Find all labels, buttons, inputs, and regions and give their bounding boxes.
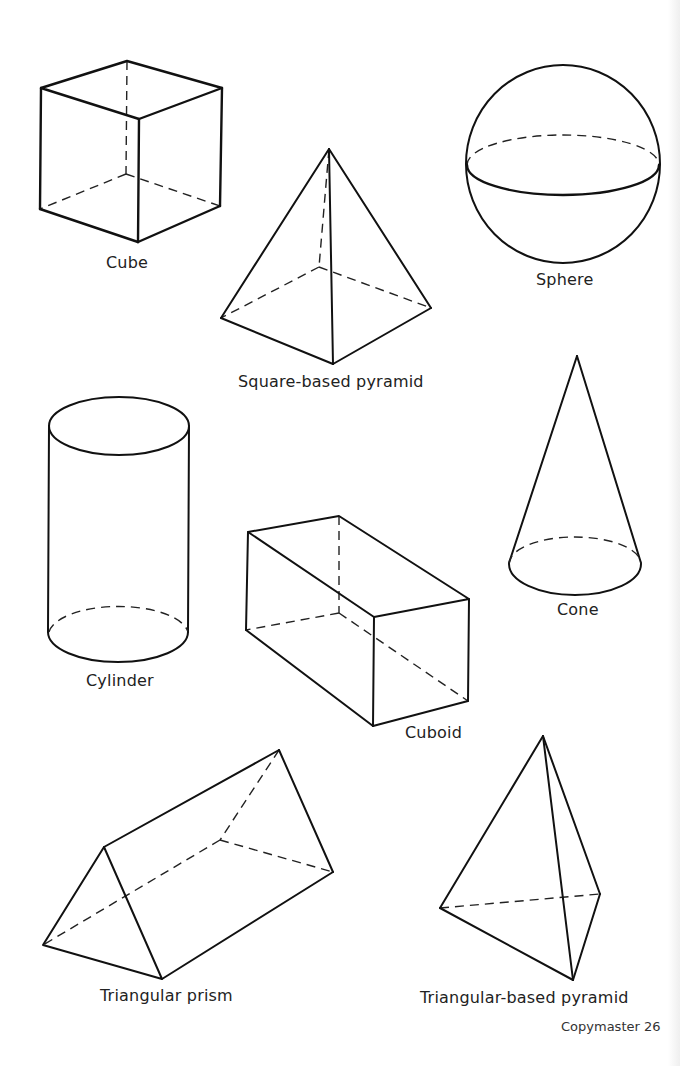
cone-label: Cone	[557, 602, 599, 618]
sphere-label: Sphere	[536, 272, 594, 288]
cylinder-icon	[48, 397, 189, 662]
sphere-icon	[466, 65, 660, 263]
worksheet-page: Cube Square-based pyramid Sphere Cylinde…	[0, 0, 680, 1066]
shapes-illustration	[0, 0, 680, 1066]
triangular-prism-icon	[43, 750, 333, 979]
copymaster-footer: Copymaster 26	[561, 1020, 661, 1033]
cylinder-label: Cylinder	[86, 673, 154, 689]
square-based-pyramid-label: Square-based pyramid	[238, 374, 424, 390]
cuboid-label: Cuboid	[405, 725, 462, 741]
cube-label: Cube	[106, 255, 148, 271]
triangular-prism-label: Triangular prism	[100, 988, 233, 1004]
cuboid-icon	[246, 516, 469, 726]
square-based-pyramid-icon	[221, 149, 431, 364]
cone-icon	[509, 356, 641, 595]
cube-icon	[40, 61, 222, 242]
triangular-based-pyramid-label: Triangular-based pyramid	[420, 990, 629, 1006]
triangular-based-pyramid-icon	[440, 736, 600, 980]
